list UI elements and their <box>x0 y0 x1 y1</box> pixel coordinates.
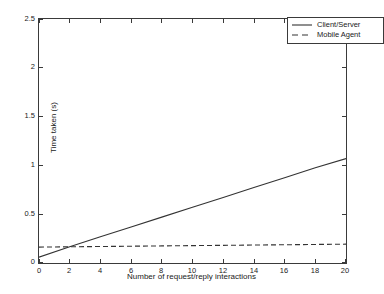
y-tick-label-0: 0 <box>5 258 35 266</box>
x-tick-7-top <box>254 19 255 23</box>
x-axis-title: Number of request/reply interactions <box>38 272 345 281</box>
y-tick-label-4: 2 <box>5 63 35 71</box>
legend-label-client-server: Client/Server <box>317 21 360 29</box>
legend-sample-dashed-line <box>291 31 313 39</box>
y-tick-2-right <box>342 165 346 166</box>
x-tick-3 <box>131 259 132 263</box>
y-tick-2 <box>39 165 43 166</box>
x-tick-10 <box>345 259 346 263</box>
x-tick-9 <box>315 259 316 263</box>
y-tick-1-right <box>342 214 346 215</box>
data-series-svg <box>39 19 346 263</box>
x-tick-0-top <box>39 19 40 23</box>
legend-entry-mobile-agent: Mobile Agent <box>288 30 383 40</box>
x-tick-6-top <box>223 19 224 23</box>
y-tick-label-5: 2.5 <box>5 15 35 23</box>
series-line-client-server <box>39 159 346 258</box>
y-tick-4-right <box>342 67 346 68</box>
legend-label-mobile-agent: Mobile Agent <box>317 31 360 39</box>
x-tick-0 <box>39 259 40 263</box>
legend-entry-client-server: Client/Server <box>288 20 383 30</box>
x-tick-8 <box>284 259 285 263</box>
x-tick-2 <box>100 259 101 263</box>
x-tick-3-top <box>131 19 132 23</box>
y-tick-label-2: 1 <box>5 161 35 169</box>
legend-sample-solid-line <box>291 21 313 29</box>
y-tick-label-1: 0.5 <box>5 210 35 218</box>
y-tick-3 <box>39 116 43 117</box>
x-tick-6 <box>223 259 224 263</box>
plot-area: 0 0.5 1 1.5 2 2.5 0 2 4 6 8 10 <box>38 18 347 264</box>
y-tick-4 <box>39 67 43 68</box>
x-tick-8-top <box>284 19 285 23</box>
series-line-mobile-agent <box>39 244 346 247</box>
x-tick-5 <box>192 259 193 263</box>
x-tick-7 <box>254 259 255 263</box>
x-tick-4-top <box>161 19 162 23</box>
y-tick-label-3: 1.5 <box>5 112 35 120</box>
y-axis-title: Time taken (s) <box>49 58 58 198</box>
x-tick-4 <box>161 259 162 263</box>
y-tick-3-right <box>342 116 346 117</box>
x-tick-2-top <box>100 19 101 23</box>
x-tick-1-top <box>69 19 70 23</box>
x-tick-1 <box>69 259 70 263</box>
x-tick-5-top <box>192 19 193 23</box>
y-tick-1 <box>39 214 43 215</box>
legend: Client/Server Mobile Agent <box>287 17 384 44</box>
